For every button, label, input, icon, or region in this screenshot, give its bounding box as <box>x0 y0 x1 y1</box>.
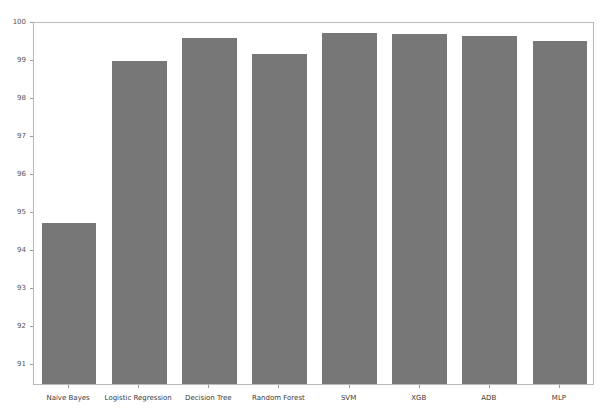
bar-random-forest <box>252 54 307 384</box>
x-tick-label-adb: ADB <box>481 394 496 402</box>
y-tick-label: 98 <box>17 95 26 102</box>
bar-adb <box>462 36 517 384</box>
y-tick-label: 99 <box>17 57 26 64</box>
x-tick-mark <box>208 385 209 388</box>
bar-mlp <box>533 41 588 384</box>
bar-logistic-regression <box>112 61 167 384</box>
x-tick-mark <box>559 385 560 388</box>
y-tick-label: 92 <box>17 323 26 330</box>
y-tick-label: 100 <box>13 19 26 26</box>
x-tick-mark <box>349 385 350 388</box>
y-tick-label: 96 <box>17 171 26 178</box>
bar-svm <box>322 33 377 384</box>
y-tick-label: 91 <box>17 361 26 368</box>
bar-xgb <box>392 34 447 384</box>
x-tick-label-random-forest: Random Forest <box>252 394 305 402</box>
x-tick-mark <box>489 385 490 388</box>
x-tick-mark <box>68 385 69 388</box>
bar-chart-figure: 919293949596979899100 Naive BayesLogisti… <box>0 0 612 419</box>
y-tick-label: 94 <box>17 247 26 254</box>
bars-layer <box>34 23 593 384</box>
x-tick-label-xgb: XGB <box>411 394 426 402</box>
y-tick-label: 93 <box>17 285 26 292</box>
x-tick-mark <box>138 385 139 388</box>
plot-area <box>33 22 594 385</box>
y-tick-label: 95 <box>17 209 26 216</box>
x-tick-label-mlp: MLP <box>552 394 566 402</box>
x-tick-mark <box>419 385 420 388</box>
bar-naive-bayes <box>42 223 97 384</box>
x-tick-label-decision-tree: Decision Tree <box>185 394 232 402</box>
x-tick-label-naive-bayes: Naive Bayes <box>46 394 89 402</box>
x-tick-mark <box>278 385 279 388</box>
y-axis: 919293949596979899100 <box>0 0 33 419</box>
x-tick-label-svm: SVM <box>341 394 356 402</box>
x-tick-label-logistic-regression: Logistic Regression <box>105 394 172 402</box>
y-tick-label: 97 <box>17 133 26 140</box>
bar-decision-tree <box>182 38 237 384</box>
x-axis: Naive BayesLogistic RegressionDecision T… <box>33 385 594 419</box>
scan-artifact-strip <box>0 0 612 8</box>
